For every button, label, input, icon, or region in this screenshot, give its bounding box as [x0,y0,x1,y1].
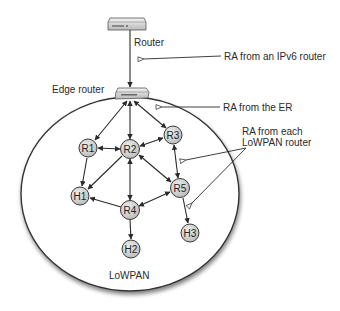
node-r3-label: R3 [167,130,180,141]
node-r2: R2 [121,140,140,159]
node-r4: R4 [121,201,140,220]
annotation-ra-ipv6: RA from an IPv6 router [224,51,326,62]
node-h1: H1 [71,187,89,205]
node-r3: R3 [164,126,182,144]
annotation-ra-lowpan-line1: RA from each [242,126,303,137]
node-h2: H2 [122,240,140,258]
router-icon [108,18,146,30]
node-r5: R5 [171,179,190,198]
node-r1-label: R1 [82,143,95,154]
node-r5-label: R5 [174,183,187,194]
node-r2-label: R2 [124,144,137,155]
node-h2-label: H2 [125,244,138,255]
diagram-canvas: R1 R2 R3 R4 R5 H1 H2 H3 R [0,0,340,311]
annotation-ra-lowpan-line2: LoWPAN router [242,137,311,148]
edge-router-label: Edge router [52,84,104,95]
node-r1: R1 [79,139,97,157]
lowpan-region-label: LoWPAN [109,270,149,281]
node-h1-label: H1 [74,191,87,202]
router-label: Router [134,37,164,48]
node-h3: H3 [181,224,199,242]
node-r4-label: R4 [124,205,137,216]
edge-router-icon [115,88,149,99]
annotation-ra-er: RA from the ER [223,102,292,113]
node-h3-label: H3 [184,228,197,239]
pointer-ra-ipv6 [144,56,221,59]
